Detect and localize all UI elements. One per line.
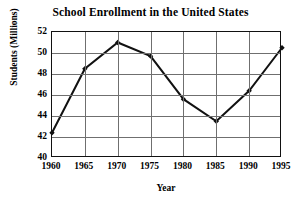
- x-axis-title: Year: [51, 183, 281, 194]
- gridline-vertical: [85, 32, 86, 156]
- gridline-vertical: [249, 32, 250, 156]
- gridline-vertical: [183, 32, 184, 156]
- y-axis-tick-label: 48: [3, 68, 47, 78]
- gridline-horizontal: [52, 74, 280, 75]
- data-line: [52, 43, 282, 133]
- y-axis-tick-label: 42: [3, 131, 47, 141]
- gridline-horizontal: [52, 137, 280, 138]
- gridline-horizontal: [52, 53, 280, 54]
- chart-title: School Enrollment in the United States: [0, 6, 301, 19]
- y-axis-tick-label: 44: [3, 110, 47, 120]
- gridline-vertical: [118, 32, 119, 156]
- y-axis-tick-label: 52: [3, 26, 47, 36]
- gridline-horizontal: [52, 116, 280, 117]
- y-axis-tick-label: 50: [3, 47, 47, 57]
- x-axis-tick-label: 1995: [261, 161, 301, 172]
- gridline-horizontal: [52, 95, 280, 96]
- gridline-vertical: [151, 32, 152, 156]
- chart-figure: School Enrollment in the United States S…: [0, 0, 301, 204]
- gridline-vertical: [216, 32, 217, 156]
- y-axis-tick-label: 46: [3, 89, 47, 99]
- plot-area: [51, 31, 281, 157]
